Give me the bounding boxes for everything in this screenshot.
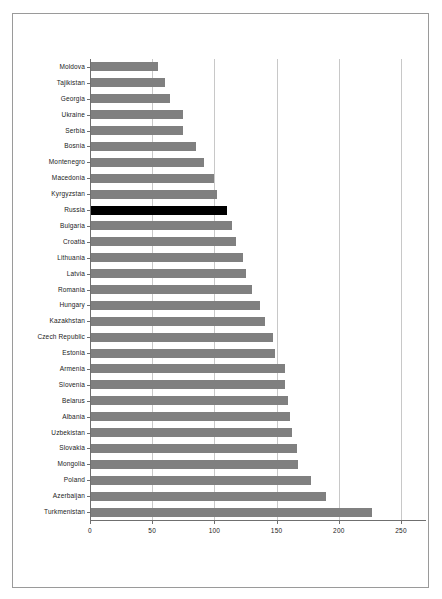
category-label-kazakhstan: Kazakhstan (50, 318, 85, 325)
bar-georgia (90, 94, 170, 103)
category-label-estonia: Estonia (62, 350, 85, 357)
bar-row: Tajikistan (90, 78, 426, 87)
x-tick-mark-200 (339, 520, 340, 524)
bar-slovakia (90, 444, 297, 453)
category-label-georgia: Georgia (61, 95, 85, 102)
bar-kazakhstan (90, 317, 265, 326)
bar-row: Turkmenistan (90, 508, 426, 517)
x-tick-label: 200 (333, 527, 344, 534)
bar-uzbekistan (90, 428, 292, 437)
bar-row: Bulgaria (90, 221, 426, 230)
bar-poland (90, 476, 311, 485)
x-tick-mark-100 (214, 520, 215, 524)
category-label-slovenia: Slovenia (59, 382, 85, 389)
bar-row: Montenegro (90, 158, 426, 167)
x-tick-label: 100 (209, 527, 220, 534)
bar-macedonia (90, 174, 214, 183)
bar-albania (90, 412, 290, 421)
category-label-belarus: Belarus (62, 398, 85, 405)
category-label-romania: Romania (58, 286, 85, 293)
category-label-armenia: Armenia (60, 366, 85, 373)
bar-estonia (90, 349, 275, 358)
category-label-poland: Poland (64, 477, 85, 484)
x-tick-label: 150 (271, 527, 282, 534)
bar-row: Bosnia (90, 142, 426, 151)
category-label-slovakia: Slovakia (59, 445, 85, 452)
bar-montenegro (90, 158, 204, 167)
bar-row: Armenia (90, 364, 426, 373)
bar-bulgaria (90, 221, 232, 230)
x-tick-mark-250 (401, 520, 402, 524)
x-tick-mark-50 (152, 520, 153, 524)
bar-row: Mongolia (90, 460, 426, 469)
bar-row: Poland (90, 476, 426, 485)
category-label-kyrgyzstan: Kyrgyzstan (51, 191, 85, 198)
bar-mongolia (90, 460, 298, 469)
bar-row: Croatia (90, 237, 426, 246)
bar-row: Macedonia (90, 174, 426, 183)
bar-row: Russia (90, 206, 426, 215)
bar-lithuania (90, 253, 243, 262)
x-tick-mark-0 (90, 520, 91, 524)
x-tick-label: 50 (148, 527, 156, 534)
bar-latvia (90, 269, 246, 278)
bar-row: Latvia (90, 269, 426, 278)
bar-row: Albania (90, 412, 426, 421)
bar-moldova (90, 62, 158, 71)
bar-row: Lithuania (90, 253, 426, 262)
bar-row: Georgia (90, 94, 426, 103)
bar-bosnia (90, 142, 196, 151)
bar-row: Slovenia (90, 380, 426, 389)
bar-azerbaijan (90, 492, 326, 501)
bar-belarus (90, 396, 288, 405)
bar-romania (90, 285, 252, 294)
bar-row: Czech Republic (90, 333, 426, 342)
chart-page: MoldovaTajikistanGeorgiaUkraineSerbiaBos… (0, 0, 442, 599)
category-label-mongolia: Mongolia (57, 461, 85, 468)
bar-row: Uzbekistan (90, 428, 426, 437)
category-label-latvia: Latvia (67, 270, 85, 277)
category-label-bosnia: Bosnia (64, 143, 85, 150)
bar-ukraine (90, 110, 183, 119)
category-label-moldova: Moldova (59, 64, 85, 71)
category-label-albania: Albania (62, 413, 85, 420)
bar-row: Moldova (90, 62, 426, 71)
bar-slovenia (90, 380, 285, 389)
category-label-serbia: Serbia (65, 127, 85, 134)
bar-turkmenistan (90, 508, 372, 517)
category-label-tajikistan: Tajikistan (57, 80, 85, 87)
category-label-croatia: Croatia (63, 239, 85, 246)
figure-frame: MoldovaTajikistanGeorgiaUkraineSerbiaBos… (12, 13, 429, 588)
x-tick-label: 0 (88, 527, 92, 534)
plot-area: MoldovaTajikistanGeorgiaUkraineSerbiaBos… (90, 59, 426, 520)
bar-row: Romania (90, 285, 426, 294)
y-axis-line (90, 59, 91, 520)
category-label-czech-republic: Czech Republic (37, 334, 85, 341)
bar-croatia (90, 237, 236, 246)
bar-row: Serbia (90, 126, 426, 135)
category-label-ukraine: Ukraine (62, 111, 85, 118)
bar-serbia (90, 126, 183, 135)
category-label-lithuania: Lithuania (57, 254, 85, 261)
bar-russia (90, 206, 227, 215)
category-label-montenegro: Montenegro (49, 159, 85, 166)
bar-czech-republic (90, 333, 273, 342)
x-axis-line (90, 520, 426, 521)
category-label-hungary: Hungary (59, 302, 85, 309)
bar-chart: MoldovaTajikistanGeorgiaUkraineSerbiaBos… (13, 14, 428, 587)
bar-row: Kyrgyzstan (90, 190, 426, 199)
category-label-azerbaijan: Azerbaijan (53, 493, 85, 500)
bar-row: Estonia (90, 349, 426, 358)
bar-row: Belarus (90, 396, 426, 405)
bar-row: Slovakia (90, 444, 426, 453)
category-label-turkmenistan: Turkmenistan (44, 509, 85, 516)
bar-row: Kazakhstan (90, 317, 426, 326)
x-tick-mark-150 (277, 520, 278, 524)
bar-row: Hungary (90, 301, 426, 310)
x-tick-label: 250 (395, 527, 406, 534)
category-label-russia: Russia (64, 207, 85, 214)
category-label-macedonia: Macedonia (52, 175, 85, 182)
bar-row: Azerbaijan (90, 492, 426, 501)
category-label-bulgaria: Bulgaria (60, 223, 85, 230)
bar-row: Ukraine (90, 110, 426, 119)
